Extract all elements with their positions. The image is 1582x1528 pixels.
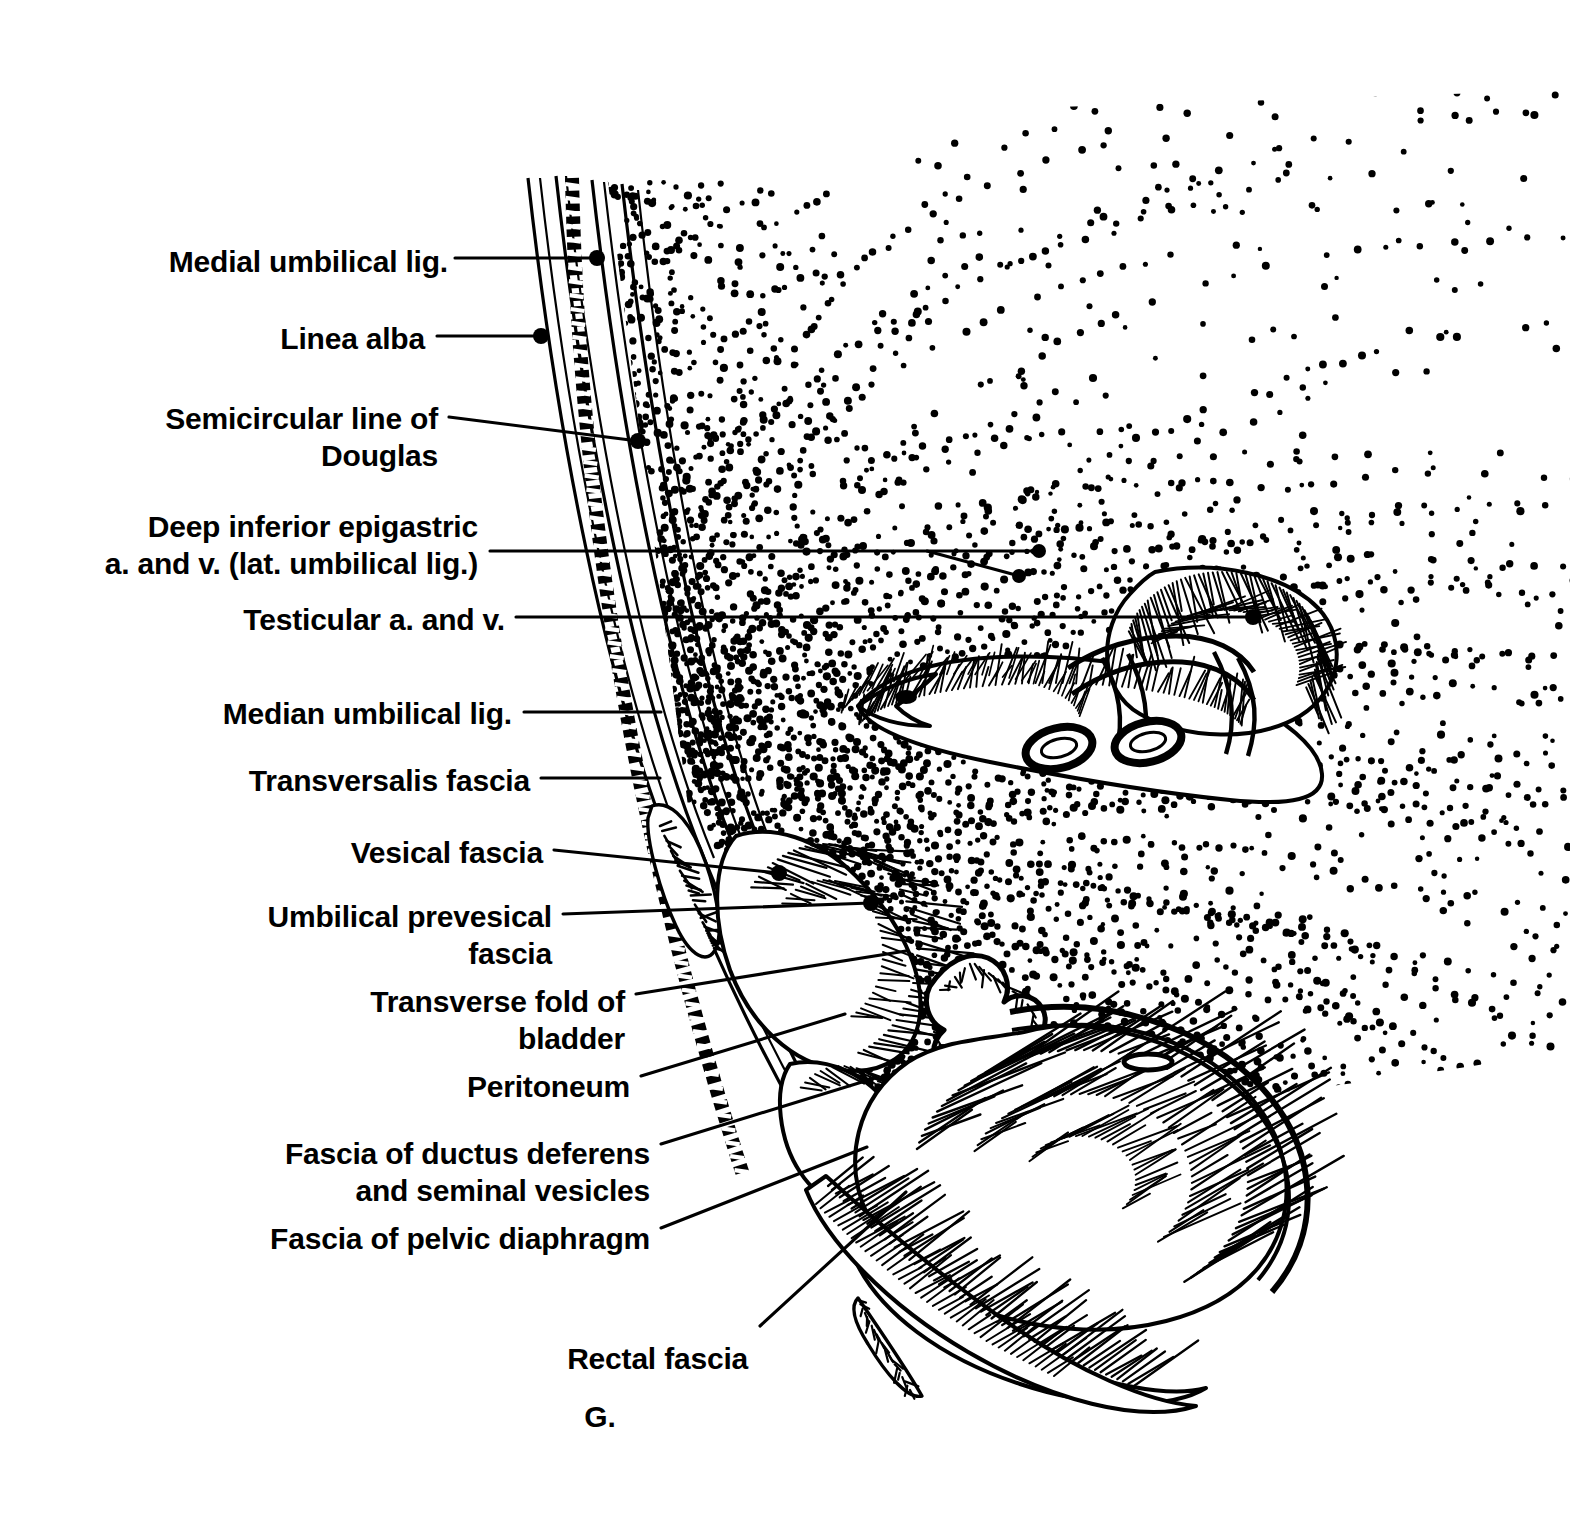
label-testicular-a-and-v: Testicular a. and v. bbox=[0, 601, 505, 638]
label-vesical-fascia: Vesical fascia bbox=[0, 834, 543, 871]
label-deep-inferior-epigastric: Deep inferior epigastric a. and v. (lat.… bbox=[0, 508, 478, 582]
label-linea-alba: Linea alba bbox=[0, 320, 425, 357]
label-umbilical-prevesical-fascia: Umbilical prevesical fascia bbox=[0, 898, 552, 972]
label-transversalis-fascia: Transversalis fascia bbox=[0, 762, 530, 799]
label-medial-umbilical-lig: Medial umbilical lig. bbox=[0, 243, 448, 280]
label-peritoneum: Peritoneum bbox=[0, 1068, 630, 1105]
label-fascia-ductus-deferens: Fascia of ductus deferens and seminal ve… bbox=[0, 1135, 650, 1209]
label-transverse-fold-bladder: Transverse fold of bladder bbox=[0, 983, 625, 1057]
panel-letter: G. bbox=[540, 1398, 660, 1435]
label-rectal-fascia: Rectal fascia bbox=[0, 1340, 748, 1377]
label-semicircular-line-douglas: Semicircular line of Douglas bbox=[0, 400, 438, 474]
anatomical-plate: Medial umbilical lig.Linea albaSemicircu… bbox=[0, 0, 1582, 1528]
label-median-umbilical-lig: Median umbilical lig. bbox=[0, 695, 512, 732]
label-fascia-pelvic-diaphragm: Fascia of pelvic diaphragm bbox=[0, 1220, 650, 1257]
